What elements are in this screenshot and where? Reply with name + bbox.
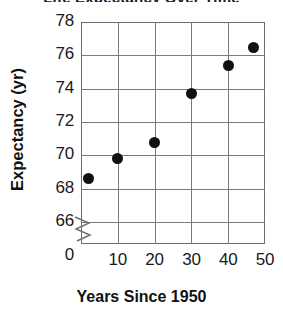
data-point bbox=[186, 88, 197, 99]
y-axis-tick-label: 74 bbox=[28, 78, 74, 98]
gridline-horizontal bbox=[81, 155, 265, 156]
y-axis-tick-label: 78 bbox=[28, 11, 74, 31]
x-axis-tick-label: 10 bbox=[98, 250, 138, 270]
y-axis-tick-label: 70 bbox=[28, 144, 74, 164]
gridline-vertical bbox=[228, 22, 229, 244]
gridline-horizontal bbox=[81, 222, 265, 223]
y-axis-tick-label: 66 bbox=[28, 211, 74, 231]
scatter-chart: Life Expectancy Over Time Expectancy (yr… bbox=[0, 0, 283, 316]
chart-title: Life Expectancy Over Time bbox=[0, 0, 283, 2]
data-point bbox=[149, 137, 160, 148]
gridline-horizontal bbox=[81, 55, 265, 56]
y-axis-tick-label: 76 bbox=[28, 44, 74, 64]
x-axis-tick-label: 30 bbox=[171, 250, 211, 270]
x-axis-tick-label: 20 bbox=[135, 250, 175, 270]
x-axis-tick-label: 50 bbox=[245, 250, 283, 270]
gridline-horizontal bbox=[81, 122, 265, 123]
gridline-vertical bbox=[155, 22, 156, 244]
gridline-horizontal bbox=[81, 189, 265, 190]
y-axis-tick-label: 68 bbox=[28, 178, 74, 198]
data-point bbox=[83, 173, 94, 184]
gridline-vertical bbox=[191, 22, 192, 244]
gridline-vertical bbox=[118, 22, 119, 244]
x-axis-title: Years Since 1950 bbox=[0, 288, 283, 306]
gridline-horizontal bbox=[81, 89, 265, 90]
data-point bbox=[223, 60, 234, 71]
x-axis-tick-label: 40 bbox=[208, 250, 248, 270]
y-axis-origin-label: 0 bbox=[28, 245, 74, 265]
y-axis-title: Expectancy (yr) bbox=[8, 40, 27, 220]
y-axis-tick-label: 72 bbox=[28, 111, 74, 131]
data-point bbox=[248, 42, 259, 53]
